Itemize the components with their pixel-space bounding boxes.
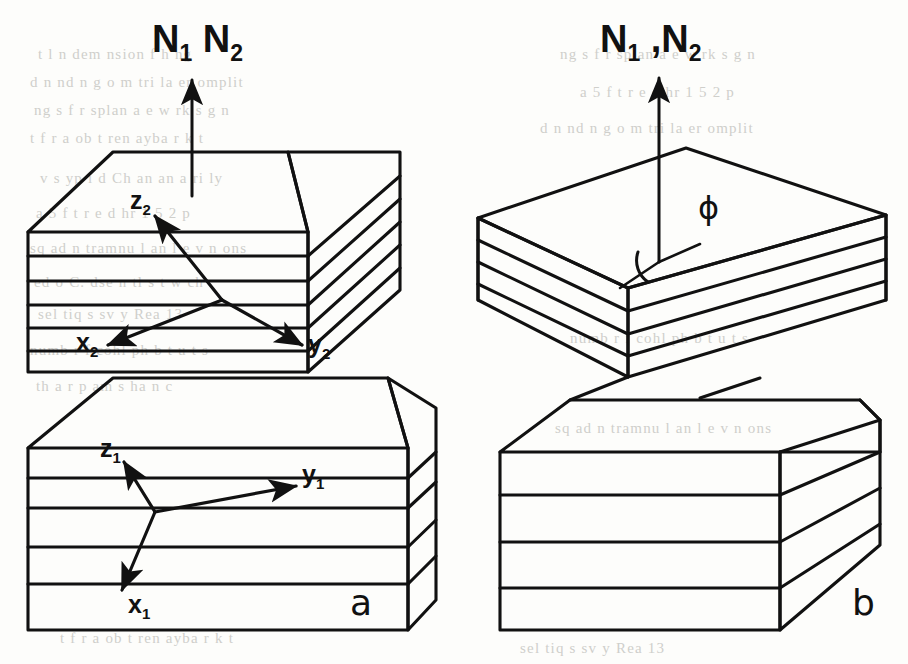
axis-label-y2: y2 (308, 332, 330, 361)
diagram-linework (0, 0, 908, 664)
figure-canvas: t l n dem nsion f h ng d n nd n g o m tr… (0, 0, 908, 664)
axis-label-x1: x1 (128, 592, 150, 621)
panel-b-upper-block (478, 148, 886, 377)
panel-label-b: b (852, 585, 875, 621)
panel-a-axes-lower (122, 462, 296, 590)
panel-a-normal-label: N1 N2 (152, 20, 243, 65)
panel-b-normal-label: N1 ,N2 (600, 20, 702, 65)
panel-b-lower-block (500, 377, 880, 630)
panel-a-lower-block (28, 378, 436, 630)
axis-label-z2: z2 (130, 188, 151, 217)
panel-label-a: a (350, 585, 372, 621)
angle-label-phi: ϕ (698, 192, 719, 224)
axis-label-x2: x2 (76, 330, 98, 359)
axis-label-z1: z1 (100, 436, 121, 465)
axis-label-y1: y1 (302, 462, 324, 491)
